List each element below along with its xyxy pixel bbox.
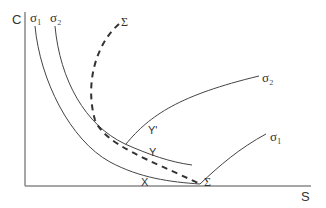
y-axis-label: C xyxy=(12,12,21,27)
sigma2-label-right: σ₂ xyxy=(262,70,274,85)
point-y-label: Y xyxy=(149,146,157,158)
sigma1-label-right: σ₁ xyxy=(270,129,282,144)
sigma2-branch xyxy=(126,76,259,144)
x-axis-label: S xyxy=(301,189,310,204)
sigma-label-top: Σ xyxy=(121,15,128,29)
point-y-prime-label: Y' xyxy=(148,124,157,136)
sigma2-label-left: σ₂ xyxy=(50,10,62,25)
point-x-label: X xyxy=(141,176,149,188)
sigma2-curve xyxy=(55,26,192,165)
sigma-label-bottom: Σ xyxy=(204,175,211,189)
sigma1-label-left: σ₁ xyxy=(30,10,42,25)
cost-surface-diagram: C S σ₁ σ₂ Σ σ₂ σ₁ Σ Y' Y X xyxy=(0,0,326,208)
